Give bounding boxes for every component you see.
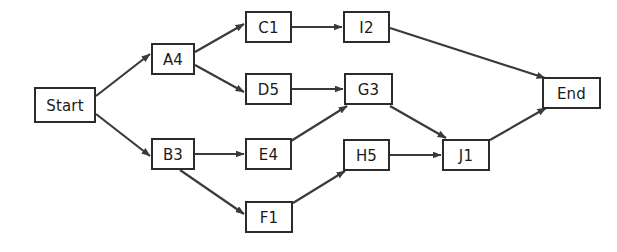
edge-start-a4 bbox=[96, 54, 150, 96]
edge-a4-d5 bbox=[195, 65, 244, 92]
node-start[interactable]: Start bbox=[35, 88, 95, 122]
node-j1[interactable]: J1 bbox=[443, 140, 489, 170]
node-label-h5: H5 bbox=[356, 147, 377, 165]
node-i2[interactable]: I2 bbox=[344, 12, 389, 42]
node-h5[interactable]: H5 bbox=[344, 140, 389, 170]
edge-a4-c1 bbox=[195, 24, 244, 52]
edge-b3-f1 bbox=[180, 170, 244, 214]
node-label-d5: D5 bbox=[258, 81, 280, 99]
node-c1[interactable]: C1 bbox=[246, 12, 291, 42]
flowchart-canvas: StartA4B3C1D5E4F1G3H5I2J1End bbox=[0, 0, 617, 252]
edge-j1-end bbox=[490, 108, 546, 140]
edge-start-b3 bbox=[96, 114, 150, 156]
edge-f1-h5 bbox=[293, 171, 345, 203]
node-d5[interactable]: D5 bbox=[246, 74, 291, 104]
node-label-i2: I2 bbox=[359, 19, 373, 37]
node-f1[interactable]: F1 bbox=[246, 202, 292, 232]
node-a4[interactable]: A4 bbox=[152, 44, 194, 74]
node-label-start: Start bbox=[46, 97, 84, 115]
nodes-layer: StartA4B3C1D5E4F1G3H5I2J1End bbox=[35, 12, 600, 232]
node-e4[interactable]: E4 bbox=[246, 139, 291, 169]
edge-i2-end bbox=[390, 28, 545, 78]
node-end[interactable]: End bbox=[543, 78, 600, 108]
node-label-b3: B3 bbox=[163, 146, 183, 164]
edge-g3-j1 bbox=[390, 106, 446, 138]
edge-e4-g3 bbox=[291, 106, 347, 141]
node-label-a4: A4 bbox=[163, 51, 183, 69]
node-g3[interactable]: G3 bbox=[345, 74, 392, 104]
node-label-g3: G3 bbox=[358, 81, 380, 99]
node-label-j1: J1 bbox=[458, 147, 473, 165]
node-b3[interactable]: B3 bbox=[152, 139, 194, 169]
flowchart-diagram: StartA4B3C1D5E4F1G3H5I2J1End bbox=[0, 0, 617, 252]
node-label-e4: E4 bbox=[259, 146, 278, 164]
node-label-end: End bbox=[557, 85, 586, 103]
node-label-f1: F1 bbox=[260, 209, 279, 227]
node-label-c1: C1 bbox=[258, 19, 278, 37]
